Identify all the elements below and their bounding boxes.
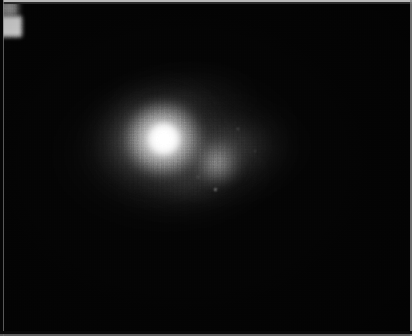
primary-nucleus-saturated-pixels [0, 16, 22, 37]
secondary-knot-core [0, 0, 18, 16]
astronomical-image-canvas [0, 0, 412, 336]
frame-left-inner [0, 0, 3, 336]
frame-top-edge [0, 0, 412, 2]
sky-background [4, 4, 410, 333]
